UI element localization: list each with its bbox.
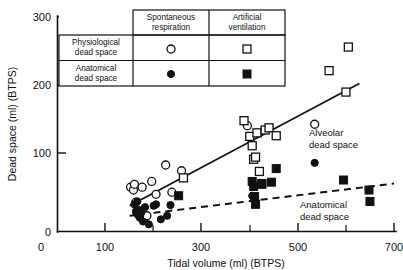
y-axis-title: Dead space (ml) (BTPS) [6, 67, 18, 181]
x-tick-label-300: 300 [192, 241, 210, 253]
data-point-filled-square [252, 200, 260, 208]
annotation-alveolar-line2: dead space [309, 139, 358, 150]
legend-marker-filled-square-icon [243, 70, 251, 78]
legend-marker-open-circle-icon [167, 45, 175, 53]
data-point-filled-circle [141, 204, 148, 211]
data-point-filled-square [365, 186, 373, 194]
legend-col-header-spontaneous-line2: respiration [152, 23, 191, 32]
data-point-open-square [252, 153, 260, 161]
x-tick-label-500: 500 [289, 241, 307, 253]
x-axis-title: Tidal volume (ml) (BTPS) [167, 257, 284, 269]
data-point-open-square [342, 88, 350, 96]
legend-row-label-physiological-line2: dead space [75, 48, 118, 57]
annotation-alveolar: Alveolar dead space [309, 127, 358, 150]
legend-row-label-anatomical-line1: Anatomical [76, 64, 117, 73]
x-tick-label-0: 0 [38, 241, 44, 253]
data-point-filled-square [258, 180, 266, 188]
data-point-open-square [265, 124, 273, 132]
data-point-filled-square [251, 192, 259, 200]
x-tick-label-700: 700 [385, 241, 403, 253]
annotation-anatomical-line1: Anatomical [300, 199, 347, 210]
legend-marker-open-square-icon [243, 45, 251, 53]
data-point-open-square [240, 117, 248, 125]
data-point-filled-square [267, 178, 275, 186]
data-point-open-square [179, 174, 187, 182]
y-tick-label-0: 0 [45, 226, 51, 238]
data-point-filled-circle [145, 221, 152, 228]
data-point-open-square [272, 132, 280, 140]
scatter-plot-svg: 300 200 100 0 0 100 300 500 700 Dead spa… [0, 0, 403, 270]
y-tick-label-300: 300 [33, 11, 51, 23]
legend-row-label-physiological-line1: Physiological [72, 38, 120, 47]
data-point-filled-circle [152, 201, 159, 208]
x-tick-label-100: 100 [96, 241, 114, 253]
y-tick-label-100: 100 [33, 147, 51, 159]
data-point-open-square [325, 67, 333, 75]
data-point-filled-square [366, 197, 374, 205]
legend-col-header-artificial-line1: Artificial [233, 13, 262, 22]
y-tick-label-200: 200 [33, 79, 51, 91]
data-point-open-square [248, 142, 256, 150]
data-point-filled-circle [164, 212, 171, 219]
data-point-filled-square [250, 182, 258, 190]
legend-marker-filled-circle-icon [167, 70, 174, 77]
data-point-open-circle [162, 161, 170, 169]
data-point-filled-circle [311, 159, 318, 166]
annotation-alveolar-line1: Alveolar [309, 127, 343, 138]
legend-col-header-spontaneous-line1: Spontaneous [147, 13, 195, 22]
data-point-open-square [253, 129, 261, 137]
data-point-filled-square [272, 165, 280, 173]
legend-row-label-anatomical-line2: dead space [75, 74, 118, 83]
data-point-filled-square [340, 176, 348, 184]
data-point-open-square [344, 43, 352, 51]
data-point-open-circle [138, 183, 146, 191]
data-point-open-square [255, 167, 263, 175]
data-point-filled-square [175, 192, 183, 200]
annotation-anatomical-line2: dead space [300, 211, 349, 222]
annotation-anatomical: Anatomical dead space [300, 199, 349, 222]
chart-figure: 300 200 100 0 0 100 300 500 700 Dead spa… [0, 0, 403, 270]
data-point-filled-circle [134, 198, 141, 205]
legend-col-header-artificial-line2: ventilation [229, 23, 266, 32]
data-point-open-circle [148, 177, 156, 185]
data-point-open-circle [152, 190, 160, 198]
data-point-filled-circle [167, 201, 174, 208]
legend-table: Spontaneous respiration Artificial venti… [59, 10, 285, 86]
data-point-open-circle [130, 180, 138, 188]
